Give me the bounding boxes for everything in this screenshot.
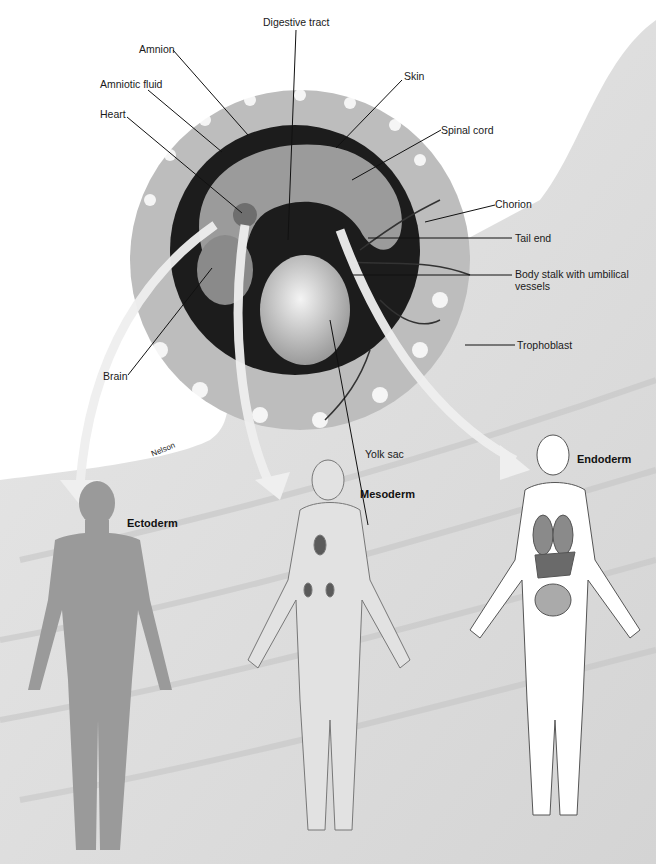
label-heart: Heart [100,108,126,120]
label-ectoderm: Ectoderm [127,517,178,529]
label-skin: Skin [404,70,424,82]
label-brain: Brain [103,370,128,382]
label-amnion: Amnion [139,43,175,55]
label-yolk-sac: Yolk sac [365,448,404,460]
diagram-artwork [0,0,656,864]
label-endoderm: Endoderm [577,453,631,465]
label-amniotic-fluid: Amniotic fluid [100,78,162,90]
label-mesoderm: Mesoderm [360,488,415,500]
yolk-sac-shape [260,255,350,365]
label-trophoblast: Trophoblast [517,339,572,351]
embryo-germ-layer-diagram: Digestive tract Amnion Amniotic fluid He… [0,0,656,864]
label-body-stalk: Body stalk with umbilical vessels [515,268,635,292]
heart-shape [233,203,257,227]
label-spinal-cord: Spinal cord [441,124,494,136]
label-tail-end: Tail end [515,232,551,244]
label-chorion: Chorion [495,198,532,210]
label-digestive-tract: Digestive tract [263,16,330,28]
